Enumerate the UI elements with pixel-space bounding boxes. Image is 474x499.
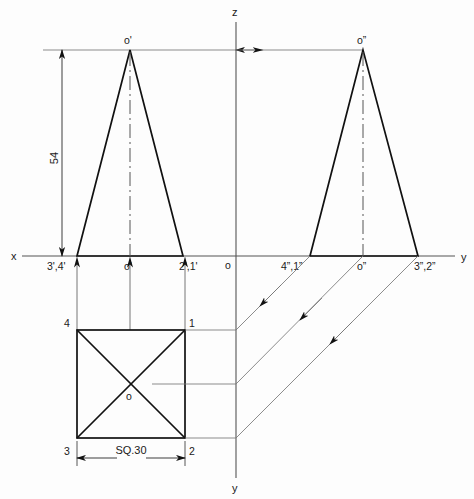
base-dimension-text: SQ.30: [115, 444, 146, 456]
horizontal-transfer-lines-group: [185, 330, 236, 438]
mitre-transfer-lines-group: [236, 256, 418, 438]
mitre-arrow-3: [330, 322, 352, 344]
axis-label-z: z: [232, 6, 238, 18]
mitre-arrow-1: [260, 285, 281, 306]
vertical-projectors-group: [77, 262, 185, 330]
engineering-drawing-canvas: x y z y o o' 3',4' o' 2',1' o” 4”,1” o” …: [0, 0, 474, 499]
front-view-base-left-label: 3',4': [47, 260, 66, 272]
axis-label-x: x: [11, 250, 17, 262]
mitre-line-2: [236, 256, 363, 384]
mitre-arrow-2: [300, 298, 322, 320]
top-view-corner-4-label: 4: [64, 317, 70, 329]
side-view-base-center-label: o”: [357, 260, 367, 272]
mitre-line-3: [236, 256, 418, 438]
front-view-base-right-label: 2',1': [179, 260, 198, 272]
axis-system: [22, 22, 455, 478]
front-view-apex-label: o': [124, 34, 132, 46]
top-view-group: [77, 330, 185, 438]
side-view-group: [310, 50, 418, 256]
top-view-corner-1-label: 1: [189, 317, 195, 329]
side-view-base-right-label: 3”,2”: [414, 260, 436, 272]
origin-label: o: [225, 259, 231, 271]
top-view-corner-3-label: 3: [64, 445, 70, 457]
side-view-apex-label: o”: [357, 34, 367, 46]
top-view-corner-2-label: 2: [189, 445, 195, 457]
projection-drawing-svg: x y z y o o' 3',4' o' 2',1' o” 4”,1” o” …: [0, 0, 474, 499]
axis-label-y-right: y: [461, 251, 467, 263]
top-view-center-label: o: [126, 390, 132, 402]
side-view-triangle: [310, 50, 418, 256]
front-view-group: [77, 50, 183, 256]
height-dimension-text: 54: [48, 152, 60, 164]
axis-label-y-bottom: y: [232, 482, 238, 494]
front-view-base-center-label: o': [124, 260, 132, 272]
